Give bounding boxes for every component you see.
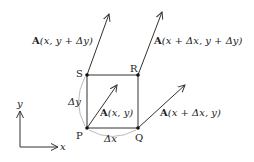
point-q-dot xyxy=(136,126,140,130)
vector-symbol: A xyxy=(153,35,162,46)
vector-field-diagram: y x S R P Q Δy Δx A(x, y + Δy) A(x + Δx,… xyxy=(0,0,254,162)
point-p-label: P xyxy=(76,130,83,141)
dx-label: Δx xyxy=(103,133,117,144)
vector-symbol: A xyxy=(99,107,108,118)
vector-args: (x + Δx, y) xyxy=(168,107,221,118)
point-s-label: S xyxy=(76,68,83,79)
point-q-label: Q xyxy=(135,132,143,143)
y-axis-label: y xyxy=(16,98,23,109)
vector-args: (x, y + Δy) xyxy=(40,35,93,46)
square-pqrs xyxy=(87,75,138,128)
point-r-label: R xyxy=(130,63,138,74)
x-axis-label: x xyxy=(60,141,66,152)
point-p-dot xyxy=(85,126,89,130)
vector-args: (x + Δx, y + Δy) xyxy=(162,35,243,46)
vector-label-s: A(x, y + Δy) xyxy=(31,35,93,46)
vector-args: (x, y) xyxy=(108,107,134,118)
vector-symbol: A xyxy=(31,35,40,46)
vector-label-q: A(x + Δx, y) xyxy=(159,107,221,118)
coordinate-axes: y x xyxy=(16,98,66,152)
vector-symbol: A xyxy=(159,107,168,118)
vector-label-p: A(x, y) xyxy=(99,107,133,118)
dy-label: Δy xyxy=(67,96,81,107)
point-s-dot xyxy=(85,73,89,77)
vector-label-r: A(x + Δx, y + Δy) xyxy=(153,35,243,46)
